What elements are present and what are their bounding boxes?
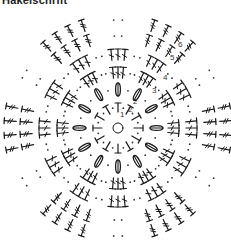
chain-dot	[155, 168, 157, 170]
stitch-post	[180, 95, 190, 100]
stitch-post	[22, 145, 34, 147]
stitch-post	[161, 153, 171, 159]
stitch-post	[177, 162, 187, 168]
stitch-post	[55, 33, 62, 43]
chain-dot	[39, 78, 41, 80]
stitch-post	[20, 134, 32, 135]
chain-dot	[195, 78, 197, 80]
stitch-post	[175, 213, 182, 223]
chain-dot	[95, 57, 97, 59]
stitch-post	[6, 106, 18, 108]
stitch-post	[113, 67, 114, 78]
stitch-post	[124, 49, 125, 60]
stitch-post	[81, 20, 85, 31]
stitch-post	[111, 49, 112, 60]
stitch-post	[73, 63, 79, 72]
stitch-post	[132, 116, 140, 121]
stitch-post	[159, 93, 168, 99]
chain-dot	[121, 219, 123, 221]
stitch-post	[163, 219, 168, 230]
chain-dot	[139, 197, 141, 199]
stitch-post	[106, 106, 111, 114]
stitch-post	[156, 205, 161, 216]
chain-dot	[171, 139, 173, 141]
stitch-post	[64, 46, 71, 56]
stitch-post	[126, 142, 131, 150]
row-1	[93, 103, 143, 153]
stitch-post	[6, 148, 18, 150]
stitch-post	[57, 132, 68, 133]
chain-dot	[132, 142, 134, 144]
chain-dot	[63, 177, 65, 179]
stitch-post	[57, 123, 68, 124]
stitch-post	[83, 78, 89, 87]
row-2	[73, 83, 163, 173]
stitch-post	[186, 121, 197, 122]
stitch-post	[39, 121, 50, 122]
stitch-post	[202, 109, 214, 111]
stitch-post	[132, 136, 140, 141]
chain-dot	[80, 117, 82, 119]
chain-dot	[139, 57, 141, 59]
chain-dot	[26, 69, 28, 71]
stitch-post	[86, 35, 90, 46]
chain-dot	[39, 176, 41, 178]
chain-dot	[121, 35, 123, 37]
stitch-post	[152, 60, 158, 70]
chain-dot	[134, 74, 136, 76]
stitch-post	[55, 213, 62, 223]
stitch-post	[218, 148, 230, 150]
stitch-post	[122, 67, 123, 78]
chain-dot	[158, 165, 160, 167]
chain-dot	[107, 90, 109, 92]
chain-dot	[105, 181, 107, 183]
chain-dot	[112, 107, 114, 109]
stitch-post	[53, 167, 62, 173]
chain-dot	[95, 197, 97, 199]
row-number: 6	[178, 40, 183, 49]
chain-dot	[144, 154, 146, 156]
stitch-post	[88, 171, 94, 181]
stitch-post	[111, 196, 112, 207]
chain-dot	[63, 139, 65, 141]
crochet-chart: 1223456	[0, 0, 231, 251]
chain-dot	[80, 137, 82, 139]
stitch-post	[204, 122, 216, 123]
stitch-post	[151, 225, 155, 236]
stitch-post	[75, 40, 80, 51]
chain-dot	[101, 55, 103, 57]
chain-dot	[195, 176, 197, 178]
chain-dot	[171, 177, 173, 179]
stitch-post	[124, 196, 125, 207]
stitch-post	[218, 106, 230, 108]
chain-dot	[167, 181, 169, 183]
chain-dot	[21, 77, 23, 79]
chain-dot	[133, 55, 135, 57]
chain-dot	[64, 144, 66, 146]
stitch-post	[96, 116, 104, 121]
stitch-post	[113, 178, 114, 189]
chain-dot	[21, 177, 23, 179]
stitch-post	[20, 122, 32, 123]
stitch-post	[64, 200, 71, 210]
chain-dot	[213, 77, 215, 79]
stitch-post	[4, 135, 16, 136]
stitch-post	[106, 142, 111, 150]
chain-dot	[101, 199, 103, 201]
row-number: 4	[163, 73, 168, 82]
chain-dot	[76, 89, 78, 91]
chain-dot	[122, 147, 124, 149]
chain-dot	[199, 84, 201, 86]
row-number: 5	[170, 53, 175, 62]
chain-dot	[103, 113, 105, 115]
chain-dot	[64, 111, 66, 113]
chain-dot	[134, 180, 136, 182]
chain-dot	[154, 117, 156, 119]
stitch-post	[166, 200, 173, 210]
magic-ring	[113, 123, 123, 133]
chain-dot	[76, 165, 78, 167]
chain-dot	[45, 111, 47, 113]
chain-dot	[63, 77, 65, 79]
chain-dot	[129, 73, 131, 75]
chain-dot	[79, 168, 81, 170]
